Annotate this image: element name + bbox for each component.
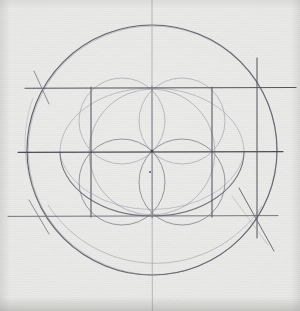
drawing-stage: [0, 0, 300, 311]
bottom-horizontal-line: [8, 216, 278, 217]
center-horizontal-line: [18, 152, 283, 153]
geometric-construction-drawing: [0, 0, 300, 311]
diagonal-bottom-right-tick-2: [232, 196, 268, 245]
top-horizontal-line: [25, 87, 296, 88]
straightedge-group: [8, 0, 296, 311]
center-point-dot: [151, 150, 154, 153]
construction-arc-left: [25, 98, 150, 275]
diagonal-upper-left-tick: [34, 71, 49, 104]
construction-arc-lower-right: [48, 205, 262, 263]
secondary-point-dot: [149, 171, 151, 173]
